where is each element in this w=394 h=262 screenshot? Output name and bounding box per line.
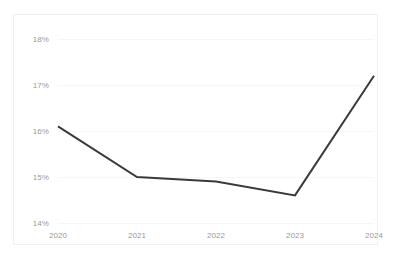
y-axis-tick-label: 17% — [9, 81, 49, 90]
x-axis-tick-label: 2024 — [349, 231, 394, 240]
line-series-svg — [58, 39, 374, 223]
x-axis-tick-label: 2021 — [112, 231, 162, 240]
x-axis-tick-label: 2022 — [191, 231, 241, 240]
chart-card: 14%15%16%17%18% 20202021202220232024 — [13, 14, 378, 245]
y-axis-tick-label: 18% — [9, 35, 49, 44]
y-axis-tick-label: 15% — [9, 173, 49, 182]
line-series-path — [58, 76, 374, 196]
x-axis-tick-label: 2023 — [270, 231, 320, 240]
plot-area: 14%15%16%17%18% 20202021202220232024 — [58, 39, 374, 223]
y-axis-tick-label: 14% — [9, 219, 49, 228]
x-axis-tick-label: 2020 — [33, 231, 83, 240]
gridline — [58, 223, 374, 224]
y-axis-tick-label: 16% — [9, 127, 49, 136]
